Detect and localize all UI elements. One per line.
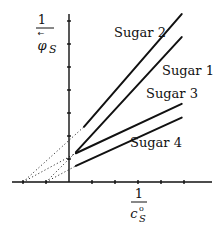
x-label-sub: S xyxy=(139,213,146,224)
y-axis-label: 1 ← φ S xyxy=(36,12,57,56)
x-axis-label: 1 c o S xyxy=(130,186,147,224)
series-extrapolation-2 xyxy=(46,152,76,182)
label-sugar-3: Sugar 3 xyxy=(146,86,198,101)
y-label-numerator: 1 xyxy=(38,12,46,27)
y-label-overarrow: ← xyxy=(38,29,45,38)
y-label-sub: S xyxy=(49,43,57,56)
x-label-sup: o xyxy=(139,204,144,213)
series-extrapolation-4 xyxy=(46,166,76,182)
y-label-phi: φ xyxy=(37,38,47,53)
x-label-numerator: 1 xyxy=(135,186,143,201)
x-label-c: c xyxy=(130,206,138,221)
label-sugar-1: Sugar 1 xyxy=(162,63,214,78)
series-extrapolation-3 xyxy=(23,153,76,182)
label-sugar-4: Sugar 4 xyxy=(130,135,182,150)
series-extrapolation-1 xyxy=(23,127,84,182)
series-labels: Sugar 2 Sugar 1 Sugar 3 Sugar 4 xyxy=(114,25,214,150)
lineweaver-burk-chart: Sugar 2 Sugar 1 Sugar 3 Sugar 4 1 ← φ S … xyxy=(0,0,220,229)
label-sugar-2: Sugar 2 xyxy=(114,25,166,40)
